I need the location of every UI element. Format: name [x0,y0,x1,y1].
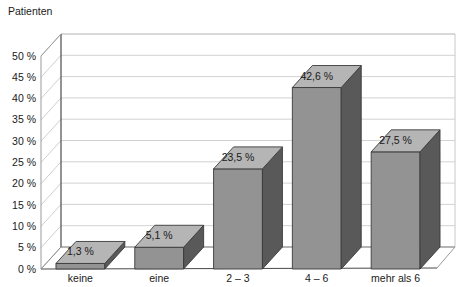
y-tick-label: 20 % [12,177,36,189]
x-category-label: eine [149,272,169,284]
y-tick-label: 40 % [12,92,36,104]
bar-side-face [341,66,361,269]
bar-value-label: 23,5 % [222,151,255,163]
y-tick-label: 5 % [18,241,36,253]
chart-canvas: 0 %5 %10 %15 %20 %25 %30 %35 %40 %45 %50… [0,0,465,287]
x-category-label: keine [68,272,93,284]
x-category-label: mehr als 6 [371,272,420,284]
bar-front-face [56,263,105,269]
bar-value-label: 42,6 % [300,70,333,82]
y-tick-label: 35 % [12,113,36,125]
bar-front-face [135,247,184,269]
bar-front-face [214,169,263,269]
x-axis-category-labels: keineeine2 – 34 – 6mehr als 6 [68,272,420,284]
bar-value-label: 1,3 % [67,245,94,257]
y-tick-label: 45 % [12,71,36,83]
y-axis-tick-labels: 0 %5 %10 %15 %20 %25 %30 %35 %40 %45 %50… [12,50,36,275]
y-tick-label: 0 % [18,263,36,275]
y-tick-label: 50 % [12,50,36,62]
bar-chart: 0 %5 %10 %15 %20 %25 %30 %35 %40 %45 %50… [0,0,465,287]
y-axis-title: Patienten [8,5,53,17]
bar-side-face [420,130,440,269]
y-tick-label: 30 % [12,135,36,147]
y-tick-label: 15 % [12,199,36,211]
bar-value-label: 5,1 % [146,229,173,241]
y-tick-label: 25 % [12,156,36,168]
y-tick-label: 10 % [12,220,36,232]
bar-front-face [371,152,420,269]
bar-front-face [292,88,341,269]
x-category-label: 2 – 3 [226,272,250,284]
x-category-label: 4 – 6 [305,272,329,284]
bar-value-label: 27,5 % [379,134,412,146]
